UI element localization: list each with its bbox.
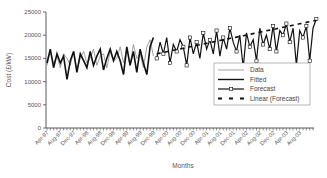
legend-label: Fitted [250, 76, 267, 83]
forecast-marker [275, 50, 278, 53]
y-tick-label: 20000 [24, 32, 41, 38]
forecast-marker [222, 36, 225, 39]
x-axis-label: Months [172, 162, 194, 169]
y-axis-label: Cost (£/kW) [5, 53, 13, 87]
x-axis: Apr-97Aug-97Dec-97Apr-98Aug-98Dec-98Apr-… [34, 128, 314, 146]
y-tick-label: 0 [38, 125, 42, 131]
forecast-marker [228, 27, 231, 30]
forecast-marker [255, 59, 258, 62]
y-tick-label: 10000 [24, 79, 41, 85]
x-tick-label: Aug-03 [285, 129, 302, 146]
x-tick-label: Dec-97 [59, 129, 76, 146]
y-tick-label: 25000 [24, 9, 41, 15]
forecast-marker [235, 50, 238, 53]
legend-label: Forecast [250, 85, 275, 92]
forecast-marker [301, 36, 304, 39]
forecast-marker [308, 59, 311, 62]
forecast-marker [288, 41, 291, 44]
forecast-marker [248, 45, 251, 48]
legend: DataFittedForecastLinear (Forecast) [214, 63, 310, 105]
legend-label: Data [250, 66, 264, 73]
fitted-series-line [47, 38, 153, 80]
forecast-marker [281, 34, 284, 37]
y-tick-label: 15000 [24, 55, 41, 61]
forecast-marker [208, 38, 211, 41]
forecast-marker [168, 61, 171, 64]
forecast-marker [285, 22, 288, 25]
forecast-marker [215, 29, 218, 32]
forecast-marker [202, 31, 205, 34]
y-tick-label: 5000 [28, 102, 42, 108]
legend-label: Linear (Forecast) [250, 95, 300, 103]
legend-marker [230, 87, 233, 90]
x-tick-label: Dec-01 [219, 129, 236, 146]
x-tick-label: Dec-02 [259, 129, 276, 146]
forecast-marker [188, 36, 191, 39]
forecast-line-chart: 0500010000150002000025000 Apr-97Aug-97De… [0, 0, 327, 178]
x-tick-label: Dec-98 [99, 129, 116, 146]
forecast-marker [268, 48, 271, 51]
forecast-marker [305, 24, 308, 27]
x-tick-label: Dec-99 [139, 129, 156, 146]
forecast-marker [272, 24, 275, 27]
forecast-marker [185, 64, 188, 67]
forecast-series-line [157, 19, 317, 68]
forecast-marker [195, 41, 198, 44]
x-tick-label: Dec-00 [179, 129, 196, 146]
y-axis: 0500010000150002000025000 [24, 9, 46, 131]
forecast-marker [162, 52, 165, 55]
forecast-marker [155, 57, 158, 60]
forecast-marker [262, 43, 265, 46]
